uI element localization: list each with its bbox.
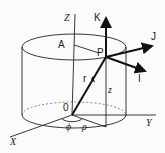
j-label: J	[151, 31, 156, 42]
rho-label: ρ	[81, 121, 87, 132]
z-axis-label: Z	[64, 12, 70, 23]
z-axis	[72, 14, 75, 115]
cylindrical-coordinates-diagram: Z K J I A P r z 0 ϕ ρ Y X	[0, 0, 165, 153]
a-to-p-line	[74, 45, 99, 53]
unit-vector-i	[106, 57, 145, 71]
p-label: P	[97, 47, 104, 58]
unit-vector-j	[106, 46, 152, 57]
phi-arc	[62, 119, 82, 122]
radius-vector-r	[72, 57, 106, 115]
i-label: I	[138, 73, 141, 84]
a-label: A	[58, 39, 65, 50]
diagram-canvas: Z K J I A P r z 0 ϕ ρ Y X	[0, 0, 165, 153]
origin-label: 0	[63, 102, 69, 113]
y-axis-label: Y	[146, 117, 153, 128]
x-axis-label: X	[9, 136, 17, 147]
x-axis	[10, 115, 72, 137]
r-label: r	[83, 73, 87, 84]
phi-label: ϕ	[66, 121, 71, 132]
z-height-label: z	[107, 84, 112, 95]
k-label: K	[94, 12, 101, 23]
